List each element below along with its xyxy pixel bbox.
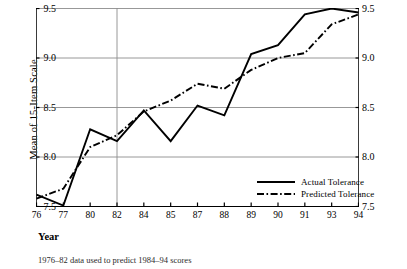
x-tick-label: 90	[265, 210, 291, 220]
y-tick-label-right: 8.5	[362, 103, 375, 113]
x-tick-label: 85	[158, 210, 184, 220]
x-tick-label: 88	[211, 210, 237, 220]
y-tick-label-left: 9.5	[44, 4, 57, 14]
x-tick-label: 80	[77, 210, 103, 220]
x-tick-label: 94	[346, 210, 372, 220]
chart-legend: Actual Tolerance Predicted Tolerance	[256, 176, 374, 200]
x-tick-label: 76	[24, 210, 50, 220]
legend-sample-dashdot	[256, 189, 296, 199]
y-tick-label-right: 8.0	[362, 152, 375, 162]
y-tick-label-left: 8.0	[44, 152, 57, 162]
y-tick-label-right: 9.0	[362, 53, 375, 63]
legend-sample-solid	[256, 177, 296, 187]
x-tick-label: 89	[238, 210, 264, 220]
y-tick-label-left: 8.5	[44, 103, 57, 113]
y-tick-label-left: 9.0	[44, 53, 57, 63]
figure-caption: 1976–82 data used to predict 1984–94 sco…	[38, 255, 191, 265]
x-tick-label: 93	[319, 210, 345, 220]
x-tick-label: 87	[185, 210, 211, 220]
x-tick-label: 77	[50, 210, 76, 220]
x-tick-label: 91	[292, 210, 318, 220]
legend-label-predicted: Predicted Tolerance	[301, 189, 374, 199]
legend-item-predicted: Predicted Tolerance	[256, 188, 374, 200]
y-tick-label-right: 9.5	[362, 4, 375, 14]
legend-label-actual: Actual Tolerance	[301, 177, 364, 187]
x-tick-label: 84	[131, 210, 157, 220]
legend-item-actual: Actual Tolerance	[256, 176, 374, 188]
x-axis-title: Year	[38, 231, 59, 242]
x-tick-label: 82	[104, 210, 130, 220]
tolerance-line-chart: Mean of 15-Item Scale 7.58.08.59.09.5 7.…	[0, 0, 407, 269]
